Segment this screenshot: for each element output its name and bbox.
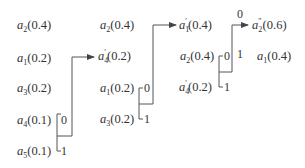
node-a3-col2: a3(0.2) [100, 112, 134, 126]
bit-label-1: 1 [61, 145, 67, 157]
merge-connector-2 [139, 25, 176, 119]
node-a1prime-col3: a1′(0.4) [179, 18, 212, 32]
bit-label-0: 0 [224, 50, 230, 62]
node-a3-col1: a3(0.2) [17, 81, 51, 95]
bit-label-1: 1 [144, 113, 150, 125]
node-a2-col2: a2(0.4) [100, 18, 134, 32]
node-a2-col1: a2(0.4) [17, 18, 51, 32]
merge-connector-1 [57, 57, 94, 151]
node-a4-col1: a4(0.1) [17, 113, 51, 127]
bit-label-0: 0 [144, 82, 150, 94]
bit-label-0: 0 [237, 8, 243, 20]
bit-label-0: 0 [61, 114, 67, 126]
node-a1-col1: a1(0.2) [17, 51, 51, 65]
node-a2-col3: a2(0.4) [180, 49, 214, 63]
node-a5-col1: a5(0.1) [17, 144, 51, 158]
node-a4prime-col2: a4′(0.2) [98, 49, 131, 63]
node-a1-col2: a1(0.2) [100, 81, 134, 95]
bit-label-1: 1 [237, 48, 243, 60]
bit-label-1: 1 [224, 81, 230, 93]
node-a1-col4: a1(0.4) [257, 49, 291, 63]
node-a2doubleprime-col4: a2″(0.6) [252, 18, 287, 32]
node-a4prime-col3: a4′(0.2) [179, 80, 212, 94]
